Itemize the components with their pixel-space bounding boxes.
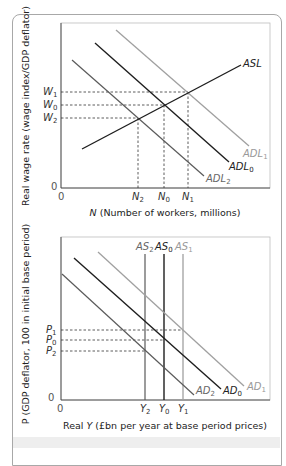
top-x-axis-title: N (Number of workers, millions) <box>90 207 241 218</box>
as1-label: AS1 <box>174 241 193 254</box>
n1-label: N1 <box>182 191 194 204</box>
top-origin-y-label: 0 <box>51 181 57 192</box>
adl1-label: ADL1 <box>242 148 268 161</box>
ad1-label: AD1 <box>246 381 266 394</box>
bottom-plot-frame <box>61 237 270 400</box>
as2-label: AS2 <box>135 241 154 254</box>
asl-label: ASL <box>242 58 262 69</box>
ad-as-chart: AS2 AS0 AS1 AD2 AD0 AD1 P1 P0 P2 0 0 Y2 … <box>20 224 270 431</box>
w0-label: W0 <box>43 99 57 112</box>
asl-curve <box>82 65 241 149</box>
ad1-curve <box>98 252 244 386</box>
y1-label: Y1 <box>178 403 189 416</box>
top-y-axis-title: Real wage rate (wage index/GDP deflator) <box>20 6 31 206</box>
bottom-x-axis-title: Real Y (£bn per year at base period pric… <box>63 420 267 431</box>
adl1-curve <box>116 30 249 146</box>
ad2-curve <box>62 274 194 395</box>
bottom-origin-y-label: 0 <box>48 392 54 403</box>
top-origin-x-label: 0 <box>58 191 64 202</box>
y0-label: Y0 <box>159 403 170 416</box>
labour-market-chart: ASL ADL1 ADL0 ADL2 W1 W0 W2 0 0 N2 N0 N1… <box>20 6 270 218</box>
w1-label: W1 <box>43 86 57 99</box>
n2-label: N2 <box>132 191 144 204</box>
y2-label: Y2 <box>140 403 151 416</box>
bottom-origin-x-label: 0 <box>57 403 63 414</box>
ad0-curve <box>74 258 221 389</box>
bottom-y-axis-title: P (GDP deflator, 100 in initial base per… <box>20 224 31 425</box>
ad0-label: AD0 <box>222 385 242 398</box>
n0-label: N0 <box>158 191 170 204</box>
adl2-label: ADL2 <box>205 173 231 186</box>
adl0-label: ADL0 <box>228 161 254 174</box>
adl0-curve <box>95 43 229 162</box>
as0-label: AS0 <box>154 241 173 254</box>
ad2-label: AD2 <box>195 385 215 398</box>
w2-label: W2 <box>43 112 57 125</box>
